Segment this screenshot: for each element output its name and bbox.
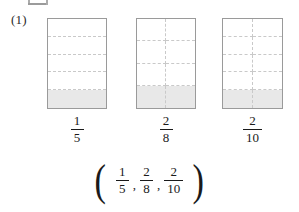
fraction-numerator: 2 xyxy=(160,114,173,129)
open-paren: ( xyxy=(95,163,106,199)
artifact-bar xyxy=(28,3,48,5)
fraction-denominator: 5 xyxy=(116,181,129,196)
fraction-denominator: 5 xyxy=(71,130,84,145)
grid-cell xyxy=(223,19,253,37)
separator-comma-2: , xyxy=(156,178,161,191)
grid-cell xyxy=(48,55,106,73)
grid-cell xyxy=(166,64,195,86)
grid-cell xyxy=(223,72,253,90)
grid-cell-shaded xyxy=(223,90,253,108)
fraction-two-tenths: 2 10 xyxy=(243,114,262,145)
fraction-denominator: 10 xyxy=(243,130,262,145)
grid-cell xyxy=(137,64,166,86)
fraction-numerator: 1 xyxy=(71,114,84,129)
grid-cell xyxy=(253,37,283,55)
fraction-models-row: 1 5 2 8 xyxy=(0,18,299,110)
grid-cell xyxy=(223,55,253,73)
grid-cell xyxy=(48,19,106,37)
fraction-model-two-eighths: 2 8 xyxy=(136,18,196,109)
fraction-two-eighths: 2 8 xyxy=(160,114,173,145)
fraction-denominator: 8 xyxy=(140,181,153,196)
grid-cell xyxy=(137,19,166,41)
grid-cell xyxy=(253,55,283,73)
cut-off-mark-artifact xyxy=(26,0,52,6)
fraction-denominator: 8 xyxy=(160,130,173,145)
fraction-model-two-tenths: 2 10 xyxy=(222,18,283,109)
grid-cell-shaded xyxy=(166,86,195,108)
grid-cell xyxy=(48,72,106,90)
fraction-numerator: 2 xyxy=(140,165,153,180)
fraction-model-one-fifth: 1 5 xyxy=(47,18,107,109)
grid-cell xyxy=(166,19,195,41)
fraction-denominator: 10 xyxy=(164,181,183,196)
fraction-numerator: 1 xyxy=(116,165,129,180)
answer-term-3: 2 10 xyxy=(164,165,183,197)
fraction-label-one-fifth: 1 5 xyxy=(47,114,107,146)
fraction-label-two-tenths: 2 10 xyxy=(222,114,283,146)
fraction-numerator: 2 xyxy=(243,114,262,129)
fraction-one-fifth: 1 5 xyxy=(71,114,84,145)
grid-cell xyxy=(137,41,166,63)
fraction-label-two-eighths: 2 8 xyxy=(136,114,196,146)
artifact-right-tick xyxy=(46,0,48,5)
area-model-grid-two-tenths xyxy=(222,18,283,109)
answer-expression: ( 1 5 , 2 8 , 2 10 ) xyxy=(0,156,299,206)
area-model-grid-one-fifth xyxy=(47,18,107,109)
grid-cell-shaded xyxy=(137,86,166,108)
grid-cell xyxy=(253,19,283,37)
close-paren: ) xyxy=(193,163,204,199)
grid-cell xyxy=(48,37,106,55)
grid-cell xyxy=(253,72,283,90)
answer-term-2: 2 8 xyxy=(140,165,153,197)
area-model-grid-two-eighths xyxy=(136,18,196,109)
grid-cell xyxy=(223,37,253,55)
grid-cell-shaded xyxy=(253,90,283,108)
fraction-numerator: 2 xyxy=(164,165,183,180)
separator-comma-1: , xyxy=(132,178,137,191)
answer-term-1: 1 5 xyxy=(116,165,129,197)
grid-cell xyxy=(166,41,195,63)
answer-terms: 1 5 , 2 8 , 2 10 xyxy=(113,165,187,197)
grid-cell-shaded xyxy=(48,90,106,108)
